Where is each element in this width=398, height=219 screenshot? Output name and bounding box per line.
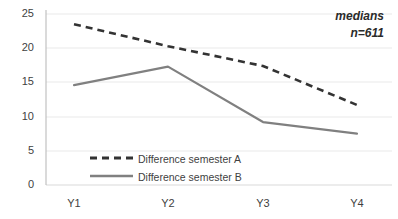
y-axis-tick-25: 25 bbox=[4, 8, 34, 19]
x-axis-tick-y1: Y1 bbox=[54, 198, 94, 209]
line-chart: 25 20 15 10 5 0 Y1 Y2 Y3 Y4 Difference s… bbox=[0, 0, 398, 219]
legend-label-series-a: Difference semester A bbox=[138, 154, 241, 165]
x-axis-tick-y4: Y4 bbox=[337, 198, 377, 209]
annotation-line-sample-size: n=611 bbox=[335, 25, 384, 42]
annotation-line-medians: medians bbox=[335, 8, 384, 25]
x-axis-tick-y3: Y3 bbox=[243, 198, 283, 209]
y-axis-tick-15: 15 bbox=[4, 76, 34, 87]
legend-swatches bbox=[90, 158, 133, 176]
y-axis-tick-20: 20 bbox=[4, 42, 34, 53]
chart-annotation: medians n=611 bbox=[335, 8, 384, 43]
x-axis-tick-y2: Y2 bbox=[148, 198, 188, 209]
y-axis-tick-10: 10 bbox=[4, 111, 34, 122]
y-axis-tick-0: 0 bbox=[4, 179, 34, 190]
legend-label-series-b: Difference semester B bbox=[138, 172, 242, 183]
series-line-difference-semester-b bbox=[74, 67, 357, 134]
y-axis-tick-5: 5 bbox=[4, 145, 34, 156]
series-line-difference-semester-a bbox=[74, 24, 357, 105]
